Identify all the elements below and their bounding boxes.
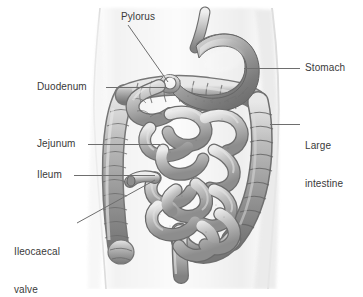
label-large-intestine-line1: Large bbox=[305, 140, 343, 153]
label-ileocaecal-valve-line1: Ileocaecal bbox=[14, 246, 60, 259]
label-large-intestine: Large intestine bbox=[305, 115, 343, 215]
label-stomach: Stomach bbox=[305, 62, 345, 75]
label-ileocaecal-valve-line2: valve bbox=[14, 284, 60, 297]
label-ileocaecal-valve: Ileocaecal valve bbox=[14, 221, 60, 297]
label-duodenum: Duodenum bbox=[37, 81, 87, 94]
label-jejunum: Jejunum bbox=[37, 138, 76, 151]
label-ileum: Ileum bbox=[37, 169, 62, 182]
label-large-intestine-line2: intestine bbox=[305, 178, 343, 191]
label-pylorus: Pylorus bbox=[121, 11, 155, 24]
